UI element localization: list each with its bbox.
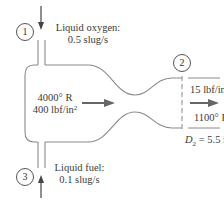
- station-1-marker: 1: [16, 23, 34, 41]
- chamber-conditions: 4000° R 400 lbf/in2: [26, 92, 84, 116]
- fuel-flow-arrow: [38, 175, 44, 198]
- exit-diameter: D2 = 5.5 in: [185, 134, 224, 150]
- fuel-name: Liquid fuel:: [52, 162, 107, 174]
- oxygen-flow-arrow: [38, 6, 44, 30]
- chamber-flow-arrow: [82, 99, 115, 107]
- fuel-flow-rate: 0.1 slug/s: [52, 174, 107, 186]
- exit-flow-arrow: [190, 99, 219, 107]
- chamber-temperature: 4000° R: [26, 92, 84, 104]
- station-3-marker: 3: [16, 168, 34, 186]
- exit-pressure: 15 lbf/in2: [190, 84, 224, 96]
- oxygen-name: Liquid oxygen:: [52, 22, 124, 34]
- station-2-marker: 2: [173, 54, 191, 72]
- oxygen-flow-rate: 0.5 slug/s: [52, 34, 124, 46]
- oxygen-label: Liquid oxygen: 0.5 slug/s: [52, 22, 124, 46]
- exit-temperature: 1100° F: [194, 112, 224, 124]
- chamber-pressure: 400 lbf/in2: [26, 104, 84, 116]
- fuel-label: Liquid fuel: 0.1 slug/s: [52, 162, 107, 186]
